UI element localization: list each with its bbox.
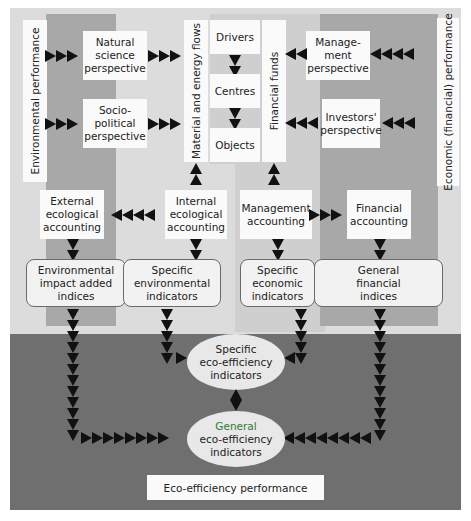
line: ecological: [167, 208, 225, 221]
arrow-left-icon: [122, 209, 133, 221]
specific-eco-efficiency-indicators: Specificeco-efficiencyindicators: [187, 334, 285, 390]
arrow-down-icon: [67, 397, 79, 408]
arrow-down-icon: [161, 309, 173, 320]
arrow-up-icon: [268, 174, 280, 185]
arrow-down-icon: [67, 239, 79, 250]
arrow-left-icon: [305, 432, 316, 444]
socio-to-flows-arrows: [148, 118, 181, 130]
internal-to-external-arrows: [111, 209, 155, 221]
arrow-left-icon: [360, 432, 371, 444]
objects-text: Objects: [215, 139, 255, 152]
arrow-right-icon: [320, 209, 331, 221]
arrow-down-icon: [374, 239, 386, 250]
economic-performance-text: Economic (financial) performance: [442, 13, 454, 190]
arrow-right-icon: [170, 50, 181, 62]
arrow-right-icon: [45, 50, 56, 62]
arrow-down-icon: [295, 320, 307, 331]
financial-funds-text: Financial funds: [268, 52, 280, 130]
specific-general-bidirectional-arrows: [230, 389, 242, 411]
arrow-right-icon: [158, 432, 169, 444]
arrow-right-icon: [67, 50, 78, 62]
arrow-right-icon: [331, 209, 342, 221]
general-eco-efficiency-indicators: Generaleco-efficiencyindicators: [187, 411, 285, 467]
arrow-down-icon: [374, 430, 386, 441]
line: Natural: [84, 36, 146, 49]
line: Management: [241, 202, 310, 215]
line: impact added: [38, 277, 114, 290]
arrow-left-icon: [111, 209, 122, 221]
environmental-impact-added-indices-box: Environmentalimpact addedindices: [26, 259, 126, 307]
econ-to-management-arrows: [370, 48, 414, 60]
material-energy-flows-text: Material and energy flows: [190, 23, 202, 159]
environmental-performance-text: Environmental performance: [29, 28, 41, 175]
arrow-down-icon: [161, 342, 173, 353]
line: ment: [307, 49, 369, 62]
arrow-down-icon: [374, 419, 386, 430]
drivers-box: Drivers: [210, 20, 260, 54]
line: economic: [252, 277, 304, 290]
arrow-down-icon: [374, 342, 386, 353]
external-down-arrows: [67, 239, 79, 261]
specific-econ-to-eco-arrow: [284, 352, 295, 364]
env-to-socio-arrows: [45, 118, 78, 130]
line: indices: [356, 290, 400, 303]
arrow-down-icon: [374, 397, 386, 408]
arrow-down-icon: [272, 239, 284, 250]
internal-ecological-accounting-box: Internalecologicalaccounting: [165, 190, 227, 239]
arrow-left-icon: [382, 117, 393, 129]
material-energy-flows-label: Material and energy flows: [184, 20, 208, 162]
line: Environmental: [38, 264, 114, 277]
financial-funds-label: Financial funds: [262, 20, 286, 162]
line: Specific: [252, 264, 304, 277]
arrow-down-icon: [374, 331, 386, 342]
arrow-right-icon: [147, 432, 158, 444]
line: perspective: [320, 124, 382, 137]
arrow-right-icon: [92, 432, 103, 444]
line: Socio-: [84, 104, 146, 117]
line: accounting: [43, 221, 101, 234]
line: indicators: [199, 446, 272, 459]
arrow-down-icon: [295, 353, 307, 364]
arrow-left-icon: [381, 48, 392, 60]
internal-down-arrows: [190, 239, 202, 261]
specific-environmental-indicators-box: Specificenvironmentalindicators: [123, 259, 221, 307]
line: eco-efficiency: [199, 433, 272, 446]
arrow-down-icon: [67, 419, 79, 430]
internal-to-flows-arrows: [190, 163, 202, 185]
arrow-left-icon: [285, 117, 296, 129]
arrow-right-icon: [170, 118, 181, 130]
external-ecological-accounting-box: Externalecologicalaccounting: [40, 190, 104, 239]
investors-to-funds-arrows: [285, 117, 318, 129]
line: indicators: [199, 369, 272, 382]
arrow-left-icon: [370, 48, 381, 60]
arrow-down-icon: [67, 331, 79, 342]
arrow-left-icon: [285, 48, 296, 60]
env-impact-down-arrows: [67, 309, 79, 441]
arrow-left-icon: [327, 432, 338, 444]
arrow-right-icon: [159, 50, 170, 62]
arrow-right-icon: [103, 432, 114, 444]
arrow-up-icon: [268, 163, 280, 174]
arrow-down-icon: [374, 320, 386, 331]
economic-performance-label: Economic (financial) performance: [437, 18, 459, 186]
arrow-left-icon: [316, 432, 327, 444]
line: Internal: [167, 195, 225, 208]
line: environmental: [134, 277, 210, 290]
arrow-left-icon: [133, 209, 144, 221]
management-perspective-box: Manage-mentperspective: [306, 31, 370, 80]
specific-economic-indicators-box: Specificeconomicindicators: [240, 259, 315, 307]
arrow-down-icon: [67, 386, 79, 397]
arrow-down-icon: [67, 309, 79, 320]
arrow-left-icon: [349, 432, 360, 444]
arrow-right-icon: [56, 118, 67, 130]
arrow-down-icon: [229, 55, 241, 66]
drivers-text: Drivers: [216, 31, 254, 44]
line: perspective: [307, 62, 369, 75]
arrow-up-icon: [190, 163, 202, 174]
arrow-right-icon: [56, 50, 67, 62]
arrow-down-icon: [374, 386, 386, 397]
arrow-down-icon: [374, 375, 386, 386]
management-accounting-box: Managementaccounting: [240, 190, 312, 239]
general-fin-down-arrows: [374, 309, 386, 441]
line: ecological: [43, 208, 101, 221]
